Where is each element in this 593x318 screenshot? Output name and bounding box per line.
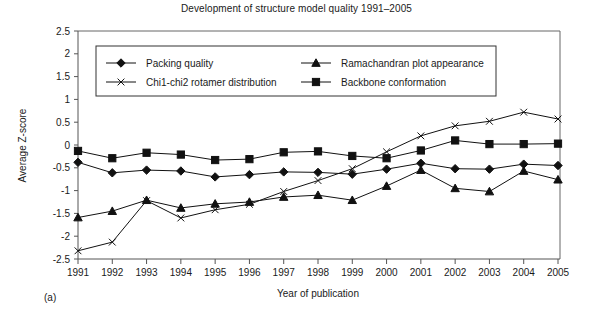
legend-border [96, 46, 496, 96]
x-tick-label: 2004 [513, 267, 536, 278]
data-point-marker [245, 170, 253, 178]
chart-legend: Packing qualityRamachandran plot appeara… [96, 46, 496, 96]
x-tick-label: 1995 [204, 267, 227, 278]
y-tick-label: -2 [61, 231, 70, 242]
data-point-marker [451, 165, 459, 173]
data-point-marker [520, 167, 528, 175]
y-axis-ticks: 2.521.510.50-0.5-1-1.5-2-2.5 [53, 26, 78, 265]
legend-label: Chi1-chi2 rotamer distribution [146, 77, 277, 88]
data-point-marker [108, 169, 116, 177]
data-point-marker [451, 184, 459, 192]
x-tick-label: 2005 [547, 267, 570, 278]
x-axis-ticks: 1991199219931994199519961997199819992000… [67, 259, 570, 278]
data-point-marker [280, 168, 288, 176]
data-point-marker [382, 165, 390, 173]
data-point-marker [109, 239, 116, 246]
data-point-marker [417, 166, 425, 174]
data-point-marker [143, 149, 150, 156]
x-tick-label: 2000 [375, 267, 398, 278]
data-point-marker [383, 155, 390, 162]
legend-label: Backbone conformation [341, 77, 446, 88]
y-tick-label: 0.5 [56, 117, 70, 128]
data-point-marker [212, 156, 219, 163]
line-chart: 2.521.510.50-0.5-1-1.5-2-2.5 19911992199… [0, 0, 593, 318]
data-point-marker [554, 161, 562, 169]
y-tick-label: 2.5 [56, 26, 70, 37]
data-point-marker [142, 166, 150, 174]
data-point-marker [485, 165, 493, 173]
y-tick-label: 2 [64, 48, 70, 59]
data-point-marker [314, 191, 322, 199]
data-point-marker [177, 151, 184, 158]
data-point-marker [486, 140, 493, 147]
data-point-marker [382, 182, 390, 190]
data-series-group [74, 109, 562, 254]
series-backbone-conformation [74, 137, 561, 164]
x-tick-label: 2003 [478, 267, 501, 278]
data-point-marker [554, 140, 561, 147]
x-tick-label: 1997 [273, 267, 296, 278]
data-point-marker [417, 132, 424, 139]
x-tick-label: 2002 [444, 267, 467, 278]
legend-label: Ramachandran plot appearance [341, 58, 484, 69]
data-point-marker [74, 158, 82, 166]
data-point-marker [314, 148, 321, 155]
y-tick-label: 1.5 [56, 71, 70, 82]
data-point-marker [246, 156, 253, 163]
series-chi1-chi2-rotamer-distribution [75, 109, 562, 254]
x-tick-label: 2001 [410, 267, 433, 278]
x-tick-label: 1993 [135, 267, 158, 278]
x-tick-label: 1994 [170, 267, 193, 278]
data-point-marker [177, 215, 184, 222]
y-tick-label: -0.5 [53, 162, 71, 173]
data-point-marker [314, 168, 322, 176]
data-point-marker [452, 137, 459, 144]
series-packing-quality [74, 158, 562, 181]
y-tick-label: -1 [61, 185, 70, 196]
x-tick-label: 1992 [101, 267, 124, 278]
data-point-marker [211, 173, 219, 181]
y-tick-label: 1 [64, 94, 70, 105]
data-point-marker [417, 147, 424, 154]
y-tick-label: 0 [64, 140, 70, 151]
y-tick-label: -2.5 [53, 254, 71, 265]
data-point-marker [177, 167, 185, 175]
x-tick-label: 1991 [67, 267, 90, 278]
data-point-marker [315, 177, 322, 184]
x-tick-label: 1996 [238, 267, 261, 278]
x-tick-label: 1999 [341, 267, 364, 278]
legend-label: Packing quality [146, 58, 213, 69]
legend-marker-square-icon [312, 78, 319, 85]
data-point-marker [74, 147, 81, 154]
x-tick-label: 1998 [307, 267, 330, 278]
data-point-marker [520, 140, 527, 147]
y-tick-label: -1.5 [53, 208, 71, 219]
data-point-marker [109, 155, 116, 162]
series-polyline [78, 112, 558, 251]
data-point-marker [280, 149, 287, 156]
figure-panel: Development of structure model quality 1… [0, 0, 593, 318]
data-point-marker [349, 152, 356, 159]
